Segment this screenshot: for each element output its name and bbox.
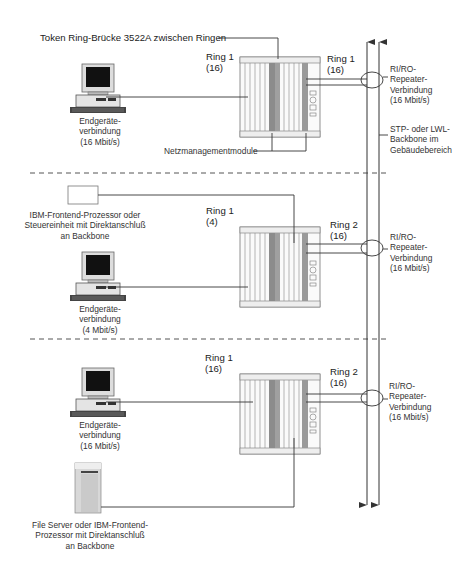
s3-ring-right: Ring 2(16) bbox=[330, 366, 358, 389]
pc-1 bbox=[70, 64, 126, 113]
hub-3 bbox=[240, 374, 320, 454]
s1-ring-right: Ring 1(16) bbox=[327, 53, 355, 76]
s2-frontend-label: IBM-Frontend-Prozessor oderSteuereinheit… bbox=[20, 210, 150, 241]
s1-ring-left: Ring 1(16) bbox=[206, 51, 234, 74]
s3-workstation-label: Endgeräte-verbindung(16 Mbit/s) bbox=[58, 420, 142, 451]
s1-repeater-label: RI/RO-Repeater-Verbindung(16 Mbit/s) bbox=[390, 64, 432, 106]
s3-repeater-label: RI/RO-Repeater-Verbindung(16 Mbit/s) bbox=[389, 381, 431, 423]
s2-ring-right: Ring 2(16) bbox=[330, 219, 358, 242]
bridge-title: Token Ring-Brücke 3522A zwischen Ringen bbox=[40, 32, 226, 43]
backbone-label: STP- oder LWL-Backbone imGebäudebereich bbox=[390, 124, 452, 155]
s2-ring-left: Ring 1(4) bbox=[206, 205, 234, 228]
s3-ring-left: Ring 1(16) bbox=[205, 352, 233, 375]
backbone-lines bbox=[367, 42, 379, 505]
hub-2 bbox=[240, 227, 320, 307]
hub-1 bbox=[240, 57, 320, 137]
s3-server-label: File Server oder IBM-Frontend-Prozessor … bbox=[20, 520, 160, 551]
s2-workstation-label: Endgeräte-verbindung(4 Mbit/s) bbox=[58, 304, 142, 335]
mgmt-label: Netzmanagementmodule bbox=[164, 146, 258, 156]
server bbox=[75, 463, 101, 513]
s1-workstation-label: Endgeräte-verbindung(16 Mbit/s) bbox=[58, 116, 142, 147]
frontend-box bbox=[68, 186, 98, 204]
pc-2 bbox=[70, 252, 126, 301]
pc-3 bbox=[70, 368, 126, 417]
s2-repeater-label: RI/RO-Repeater-Verbindung(16 Mbit/s) bbox=[390, 232, 432, 274]
